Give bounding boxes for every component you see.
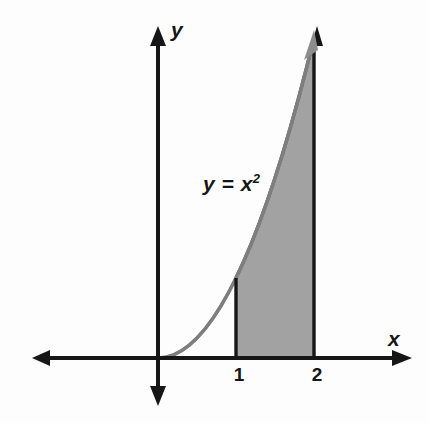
equation-relation: =	[222, 172, 235, 195]
y-axis-bottom-arrowhead	[150, 386, 166, 406]
graph-figure: y x y = x2 1 2	[0, 0, 428, 423]
coordinate-plane-svg	[0, 0, 428, 423]
equation-lhs: y	[203, 172, 215, 195]
x-axis-left-arrowhead	[32, 350, 50, 366]
equation-exponent: 2	[253, 171, 261, 186]
curve-equation-label: y = x2	[203, 171, 261, 196]
x-tick-label-1: 1	[227, 364, 251, 386]
y-axis-top-arrowhead	[150, 26, 166, 46]
equation-base: x	[241, 172, 253, 195]
x-tick-label-2: 2	[305, 364, 329, 386]
x-axis-label: x	[388, 327, 400, 351]
x-axis-right-arrowhead	[392, 350, 412, 366]
y-axis-label: y	[171, 18, 183, 42]
